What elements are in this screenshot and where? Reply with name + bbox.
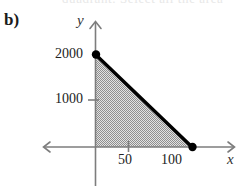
figure-container: quadrant. Select all the area b) [0, 0, 245, 191]
x-tick-label-50: 50 [118, 152, 132, 168]
x-axis-label: x [227, 151, 234, 168]
y-tick-label-1000: 1000 [55, 91, 83, 107]
vertex-dot-y-intercept [92, 50, 100, 58]
x-tick-label-100: 100 [161, 152, 182, 168]
y-tick-label-2000: 2000 [55, 46, 83, 62]
y-axis-label: y [77, 12, 84, 29]
vertex-dot-x-intercept [188, 143, 196, 151]
